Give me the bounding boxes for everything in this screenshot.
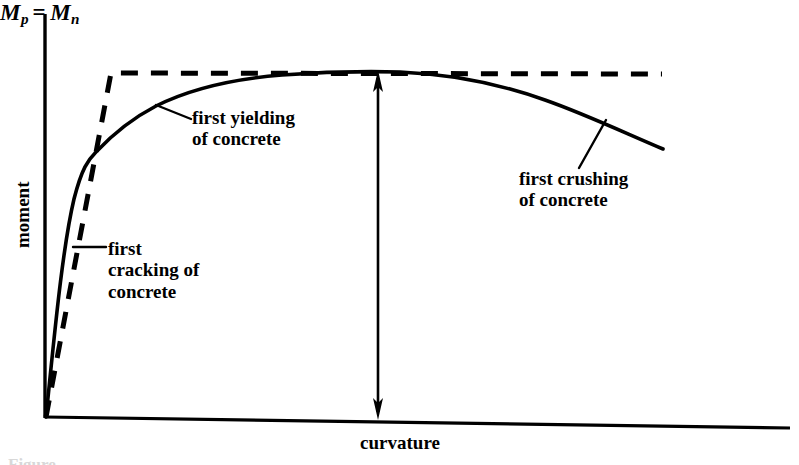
x-axis-line [45,417,790,428]
leader-line-crushing [579,120,606,168]
figure-caption-partial: Figure [8,455,268,465]
annotation-first-yielding: first yielding of concrete [192,107,295,150]
x-axis-label: curvature [360,432,440,453]
annotation-first-cracking: first cracking of concrete [108,238,199,302]
leader-line-yielding [156,105,191,119]
plot-canvas [0,0,799,465]
moment-curvature-figure: first yielding of concrete first crackin… [0,0,799,465]
annotation-first-crushing: first crushing of concrete [519,168,628,211]
y-axis-label: moment [12,182,33,248]
